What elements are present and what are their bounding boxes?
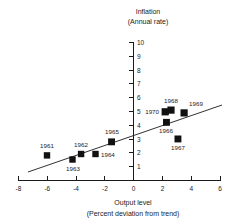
- data-point-1970: [162, 108, 169, 115]
- y-tick-label-9: 9: [137, 53, 141, 60]
- data-label-1970: 1970: [145, 108, 159, 115]
- data-point-1967: [175, 136, 182, 143]
- y-axis-ticks: [129, 43, 134, 167]
- y-tick-label-5: 5: [137, 108, 141, 115]
- data-point-1961: [44, 152, 50, 158]
- data-label-1961: 1961: [40, 142, 54, 149]
- y-tick-label-8: 8: [137, 67, 141, 74]
- x-tick-label-neg4: -4: [73, 185, 79, 192]
- x-tick-label-4: 4: [189, 185, 193, 192]
- data-label-1967: 1967: [171, 144, 185, 151]
- data-point-1969: [181, 109, 188, 116]
- trend-line: [28, 105, 222, 172]
- x-tick-label-6: 6: [218, 185, 222, 192]
- inflation-output-scatter-chart: Inflation (Annual rate) 10 9 8 7 6 5 4 3…: [0, 0, 233, 224]
- data-label-1962: 1962: [74, 141, 88, 148]
- x-axis-subtitle: (Percent deviation from trend): [87, 210, 180, 218]
- data-label-1963: 1963: [66, 165, 80, 172]
- x-axis-ticks: [19, 176, 221, 181]
- y-tick-label-4: 4: [137, 122, 141, 129]
- y-tick-label-1: 1: [137, 163, 141, 170]
- data-point-1964: [92, 151, 98, 157]
- data-point-1963: [69, 156, 75, 162]
- data-label-1969: 1969: [189, 100, 203, 107]
- x-tick-label-neg2: -2: [102, 185, 108, 192]
- y-tick-label-10: 10: [137, 39, 145, 46]
- x-tick-label-0: 0: [132, 185, 136, 192]
- y-tick-label-3: 3: [137, 136, 141, 143]
- data-label-1966: 1966: [159, 127, 173, 134]
- data-point-1962: [78, 151, 84, 157]
- x-axis-title: Output level: [114, 199, 152, 207]
- x-tick-label-neg6: -6: [44, 185, 50, 192]
- x-tick-label-neg8: -8: [16, 185, 22, 192]
- data-label-1968: 1968: [164, 97, 178, 104]
- data-label-1964: 1964: [101, 151, 115, 158]
- chart-title: Inflation: [136, 8, 161, 15]
- data-point-1965: [108, 138, 115, 145]
- data-label-1965: 1965: [105, 128, 119, 135]
- y-tick-label-2: 2: [137, 149, 141, 156]
- data-point-1966: [163, 119, 170, 126]
- x-tick-label-2: 2: [161, 185, 165, 192]
- y-tick-label-6: 6: [137, 94, 141, 101]
- chart-canvas: Inflation (Annual rate) 10 9 8 7 6 5 4 3…: [0, 0, 233, 224]
- y-tick-label-7: 7: [137, 80, 141, 87]
- chart-subtitle: (Annual rate): [128, 18, 168, 26]
